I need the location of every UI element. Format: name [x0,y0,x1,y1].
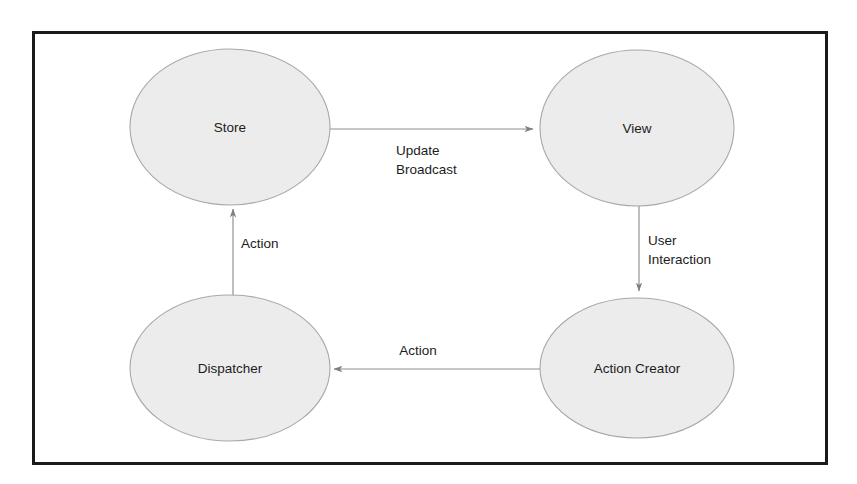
edge-dispatcher-to-store: Action [233,209,279,296]
node-action-creator-label: Action Creator [594,361,681,376]
node-action-creator[interactable]: Action Creator [540,298,734,438]
edge-store-to-view-label-line1: Update [396,143,440,158]
edge-view-to-action-creator: User Interaction [639,206,711,291]
edge-action-creator-to-dispatcher: Action [334,343,540,369]
diagram-svg-layer: Update Broadcast User Interaction Action… [0,0,857,484]
edge-view-to-action-creator-label-line2: Interaction [648,252,711,267]
edge-store-to-view-label-line2: Broadcast [396,162,457,177]
node-view[interactable]: View [540,50,734,206]
node-view-label: View [622,121,651,136]
node-dispatcher-label: Dispatcher [198,361,263,376]
node-dispatcher[interactable]: Dispatcher [130,295,330,441]
diagram-canvas: Update Broadcast User Interaction Action… [0,0,857,484]
node-store[interactable]: Store [130,49,330,205]
edge-dispatcher-to-store-label: Action [241,236,279,251]
edge-view-to-action-creator-label-line1: User [648,233,677,248]
edge-store-to-view: Update Broadcast [330,129,533,177]
node-store-label: Store [214,120,246,135]
edge-action-creator-to-dispatcher-label: Action [399,343,437,358]
